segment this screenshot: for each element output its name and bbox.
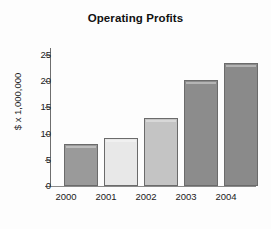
y-tick-5: 5 xyxy=(0,160,51,161)
x-tick-label-2004: 2004 xyxy=(206,191,246,202)
bar-chart: Operating Profits $ x 1,000,000 0 5 10 1… xyxy=(0,0,271,229)
x-tick-label-2003: 2003 xyxy=(166,191,206,202)
y-tick-label: 25 xyxy=(25,50,51,59)
bar-top-highlight xyxy=(146,120,176,122)
bar-2003[interactable] xyxy=(184,80,218,186)
y-tick-20: 20 xyxy=(0,81,51,82)
x-tick-label-2001: 2001 xyxy=(86,191,126,202)
bar-2002[interactable] xyxy=(144,118,178,186)
bar-top-highlight xyxy=(186,82,216,84)
bar-2004[interactable] xyxy=(224,63,258,186)
y-tick-label: 0 xyxy=(25,181,51,190)
bar-top-highlight xyxy=(226,65,256,67)
x-tick-label-2000: 2000 xyxy=(46,191,86,202)
y-tick-15: 15 xyxy=(0,107,51,108)
bar-2000[interactable] xyxy=(64,144,98,186)
y-tick-label: 10 xyxy=(25,129,51,138)
bar-top-highlight xyxy=(66,146,96,148)
y-tick-label: 5 xyxy=(25,155,51,164)
bar-2001[interactable] xyxy=(104,138,138,186)
bar-top-highlight xyxy=(106,140,136,142)
y-tick-10: 10 xyxy=(0,134,51,135)
y-tick-0: 0 xyxy=(0,186,51,187)
y-axis-label: $ x 1,000,000 xyxy=(12,37,23,167)
y-tick-label: 20 xyxy=(25,76,51,85)
y-tick-25: 25 xyxy=(0,55,51,56)
x-tick-label-2002: 2002 xyxy=(126,191,166,202)
y-tick-label: 15 xyxy=(25,102,51,111)
